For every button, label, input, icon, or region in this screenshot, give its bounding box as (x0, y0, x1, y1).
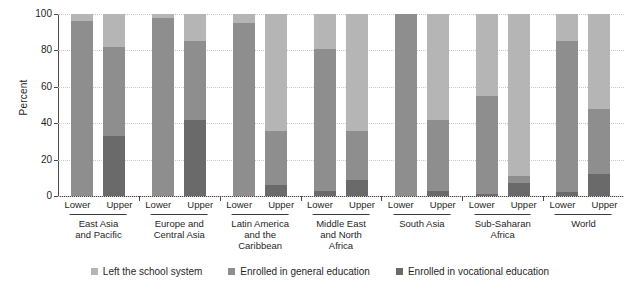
y-tick-label-80: 80 (22, 44, 52, 55)
sublabel-group-6: LowerUpper (543, 199, 624, 210)
sublabel-lower: Lower (61, 199, 93, 210)
bar-4-lower[interactable] (395, 14, 417, 196)
group-underline-cell-6 (543, 214, 624, 216)
bar-segment (346, 131, 368, 180)
bar-segment (184, 41, 206, 119)
bar-1-upper[interactable] (184, 14, 206, 196)
sublabel-group-4: LowerUpper (381, 199, 462, 210)
group-label-line: Caribbean (221, 240, 300, 251)
bar-segment (395, 14, 417, 196)
group-label-line: Central Asia (140, 229, 219, 240)
group-underline (70, 214, 127, 215)
bar-segment (103, 47, 125, 136)
group-underline-cell-1 (139, 214, 220, 216)
bar-segment (508, 183, 530, 196)
y-tick-label-0: 0 (22, 190, 52, 201)
sublabel-upper: Upper (103, 199, 135, 210)
bar-3-upper[interactable] (346, 14, 368, 196)
bar-segment (556, 41, 578, 192)
bar-group-5 (462, 14, 543, 196)
sublabel-lower: Lower (466, 199, 498, 210)
sublabel-upper: Upper (427, 199, 459, 210)
bar-6-lower[interactable] (556, 14, 578, 196)
group-label-line: Africa (463, 229, 542, 240)
bar-segment (476, 96, 498, 194)
bar-4-upper[interactable] (427, 14, 449, 196)
sublabel-lower: Lower (546, 199, 578, 210)
group-label-line: South Asia (382, 218, 461, 229)
legend-item-0[interactable]: Left the school system (91, 266, 203, 277)
bar-2-upper[interactable] (265, 14, 287, 196)
bar-segment (265, 14, 287, 130)
bar-group-4 (381, 14, 462, 196)
group-label-line: World (544, 218, 623, 229)
stacked-bar-chart: Percent 100806040200 LowerUpperLowerUppe… (0, 0, 640, 291)
bar-group-2 (220, 14, 301, 196)
bar-segment (508, 14, 530, 176)
group-underline (232, 214, 289, 215)
bar-2-lower[interactable] (233, 14, 255, 196)
bar-group-1 (139, 14, 220, 196)
bar-1-lower[interactable] (152, 14, 174, 196)
group-label-line: and North (302, 229, 381, 240)
sublabel-group-1: LowerUpper (139, 199, 220, 210)
sublabel-upper: Upper (346, 199, 378, 210)
sublabel-lower: Lower (385, 199, 417, 210)
group-label-line: and Pacific (59, 229, 138, 240)
bar-6-upper[interactable] (588, 14, 610, 196)
y-tick-label-20: 20 (22, 154, 52, 165)
group-label-3: Middle Eastand NorthAfrica (301, 218, 382, 251)
bar-segment (103, 136, 125, 196)
square-swatch-icon (396, 268, 403, 275)
bar-segment (588, 14, 610, 109)
group-label-line: Latin America (221, 218, 300, 229)
y-tick-label-100: 100 (22, 8, 52, 19)
group-underline (313, 214, 370, 215)
plot-area: 100806040200 (58, 14, 624, 196)
group-label-1: Europe andCentral Asia (139, 218, 220, 251)
legend-label: Enrolled in general education (240, 266, 370, 277)
group-underline-cell-0 (58, 214, 139, 216)
bar-group-3 (301, 14, 382, 196)
group-label-5: Sub-SaharanAfrica (462, 218, 543, 251)
bar-segment (427, 120, 449, 191)
bar-segment (314, 49, 336, 191)
bar-3-lower[interactable] (314, 14, 336, 196)
bar-segment (314, 14, 336, 49)
bar-segment (184, 14, 206, 41)
group-label-line: East Asia (59, 218, 138, 229)
legend-label: Left the school system (103, 266, 203, 277)
sublabel-upper: Upper (508, 199, 540, 210)
sublabel-lower: Lower (223, 199, 255, 210)
group-underline (474, 214, 531, 215)
bar-segment (346, 14, 368, 130)
bar-segment (265, 185, 287, 196)
sublabel-lower: Lower (304, 199, 336, 210)
legend-item-2[interactable]: Enrolled in vocational education (396, 266, 549, 277)
bar-segment (508, 176, 530, 183)
bar-segment (71, 21, 93, 196)
bar-5-upper[interactable] (508, 14, 530, 196)
group-label-line: Middle East (302, 218, 381, 229)
sublabel-group-3: LowerUpper (301, 199, 382, 210)
bar-segment (588, 109, 610, 175)
sublabel-group-0: LowerUpper (58, 199, 139, 210)
group-underline (151, 214, 208, 215)
square-swatch-icon (91, 268, 98, 275)
bar-segment (476, 14, 498, 96)
bar-segment (233, 14, 255, 23)
bar-0-lower[interactable] (71, 14, 93, 196)
group-label-line: and the (221, 229, 300, 240)
legend-item-1[interactable]: Enrolled in general education (228, 266, 370, 277)
group-underlines (58, 214, 624, 216)
bar-0-upper[interactable] (103, 14, 125, 196)
group-underline-cell-3 (301, 214, 382, 216)
bar-segment (427, 14, 449, 120)
bar-segment (265, 131, 287, 186)
sublabel-group-2: LowerUpper (220, 199, 301, 210)
x-axis-group-labels: East Asiaand PacificEurope andCentral As… (58, 218, 624, 251)
group-label-4: South Asia (381, 218, 462, 251)
bar-5-lower[interactable] (476, 14, 498, 196)
group-underline (555, 214, 612, 215)
bar-groups (58, 14, 624, 196)
